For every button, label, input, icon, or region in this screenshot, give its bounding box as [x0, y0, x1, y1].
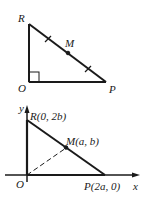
label-p-bottom: P(2a, 0) [83, 180, 120, 193]
geometry-figure: R M O P y R(0, 2b) M(a, b) O P(2a, 0) x [0, 0, 149, 198]
label-y-axis: y [18, 102, 24, 114]
label-r-bottom: R(0, 2b) [29, 110, 66, 123]
label-m-top: M [64, 37, 75, 49]
label-x-axis: x [132, 180, 138, 192]
label-o-top: O [18, 82, 26, 94]
midpoint-m [66, 51, 70, 55]
label-p-top: P [108, 83, 116, 95]
right-angle-marker [29, 72, 39, 82]
label-m-bottom: M(a, b) [65, 135, 99, 148]
x-axis-arrow-icon [132, 173, 140, 178]
y-axis-arrow-icon [25, 105, 30, 113]
right-triangle-top [29, 24, 106, 82]
median-om-dashed [27, 148, 66, 175]
label-r-top: R [17, 12, 25, 24]
label-o-bottom: O [16, 178, 24, 190]
